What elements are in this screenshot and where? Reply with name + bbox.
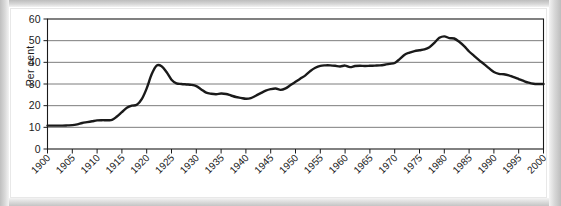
- x-tick-label-1950: 1950: [277, 152, 301, 176]
- gridlines: [48, 41, 544, 128]
- y-tick-label-0: 0: [35, 143, 41, 155]
- x-tick-label-1990: 1990: [475, 152, 499, 176]
- y-axis-ticks: [44, 19, 48, 149]
- y-axis-tick-labels: 0102030405060: [29, 13, 41, 155]
- x-tick-label-1960: 1960: [327, 152, 351, 176]
- x-tick-label-1920: 1920: [128, 152, 152, 176]
- series-line-0: [48, 36, 544, 125]
- x-tick-label-1915: 1915: [103, 152, 127, 176]
- line-chart: 0102030405060 19001905191019151920192519…: [0, 0, 561, 206]
- x-axis-ticks: [48, 149, 544, 154]
- y-tick-label-40: 40: [29, 56, 41, 68]
- x-tick-label-1970: 1970: [376, 152, 400, 176]
- x-tick-label-1985: 1985: [451, 152, 475, 176]
- x-tick-label-2000: 2000: [525, 152, 549, 176]
- x-tick-label-1910: 1910: [79, 152, 103, 176]
- data-series: [48, 36, 544, 125]
- figure-frame: Per cent 0102030405060 19001905191019151…: [0, 0, 561, 206]
- x-tick-label-1905: 1905: [54, 152, 78, 176]
- x-tick-label-1935: 1935: [203, 152, 227, 176]
- x-tick-label-1940: 1940: [227, 152, 251, 176]
- x-tick-label-1925: 1925: [153, 152, 177, 176]
- x-tick-label-1955: 1955: [302, 152, 326, 176]
- y-tick-label-60: 60: [29, 13, 41, 25]
- x-tick-label-1965: 1965: [351, 152, 375, 176]
- x-tick-label-1945: 1945: [252, 152, 276, 176]
- x-tick-label-1930: 1930: [178, 152, 202, 176]
- x-axis-tick-labels: 1900190519101915192019251930193519401945…: [29, 152, 549, 176]
- x-tick-label-1995: 1995: [500, 152, 524, 176]
- y-tick-label-30: 30: [29, 78, 41, 90]
- x-tick-label-1980: 1980: [426, 152, 450, 176]
- y-tick-label-50: 50: [29, 34, 41, 46]
- y-tick-label-10: 10: [29, 121, 41, 133]
- x-tick-label-1900: 1900: [29, 152, 53, 176]
- y-tick-label-20: 20: [29, 99, 41, 111]
- x-tick-label-1975: 1975: [401, 152, 425, 176]
